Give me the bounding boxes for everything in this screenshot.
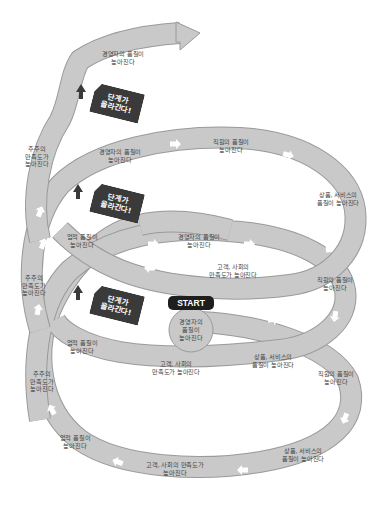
label-staff-quality: 직원의 품질이 높아진다 [213,138,250,153]
label-product-quality: 상품, 서비스의 품질이 높아진다 [317,191,359,206]
label-staff-quality: 직원의 품질이 높아진다 [317,276,354,291]
label-shareholder-satisfaction: 주주의 만족도가 높아진다 [25,145,48,168]
label-product-quality: 상품, 서비스의 품질이 높아진다 [282,447,324,462]
label-manager-quality: 경영자의 품질이 높아진다 [178,233,220,248]
start-text: 경영자의 품질이 높아진다 [179,318,203,342]
label-product-quality: 상품, 서비스의 품질이 높아진다 [252,353,294,368]
final-arrow-head-icon [176,22,200,50]
label-customer-satisfaction: 고객, 사회의 만족도가 높아진다 [152,360,200,375]
spiral-ribbon [0,0,382,511]
start-label: START [168,296,214,310]
label-manager-quality: 경영자의 품질이 높아진다 [102,50,144,65]
label-customer-satisfaction: 고객, 사회의 만족도가 높아진다 [146,461,204,476]
label-business-quality: 업적 품질이 높아진다 [67,233,98,248]
label-shareholder-satisfaction: 주주의 만족도가 높아진다 [30,370,53,393]
label-shareholder-satisfaction: 주주의 만족도가 높아진다 [22,274,45,297]
label-business-quality: 업적 품질이 높아진다 [67,339,98,354]
label-business-quality: 업적 품질이 높아진다 [60,434,91,449]
spiral-diagram: 단계가 올라간다! 단계가 올라간다! 단계가 올라간다! START 경영자의… [0,0,382,511]
label-staff-quality: 직원의 품질이 높아진다 [318,370,355,385]
label-customer-satisfaction: 고객, 사회의 만족도가 높아진다 [209,263,257,278]
label-manager-quality: 경영자의 품질이 높아진다 [99,148,141,163]
